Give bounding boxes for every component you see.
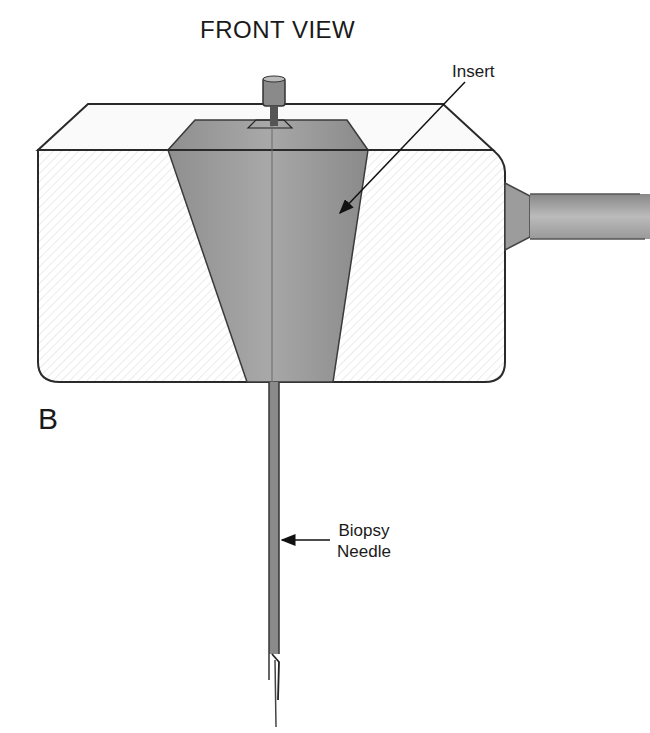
biopsy-needle bbox=[269, 382, 279, 727]
side-tube-connector bbox=[505, 183, 650, 250]
device-drawing bbox=[0, 0, 650, 733]
